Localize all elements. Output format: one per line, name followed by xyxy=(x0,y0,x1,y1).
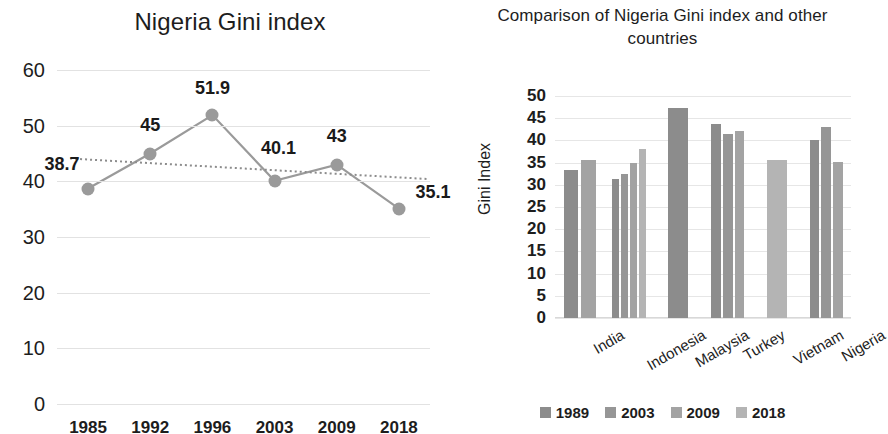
line-chart-data-point[interactable] xyxy=(268,174,281,187)
line-chart-gridline xyxy=(57,70,430,71)
bar-chart-gridline xyxy=(555,296,851,297)
line-chart-y-tick-label: 40 xyxy=(23,170,45,193)
bar-chart-gridline xyxy=(555,318,851,319)
legend-item-label: 1989 xyxy=(556,404,589,421)
bar-chart-bar[interactable] xyxy=(821,127,831,318)
bar-chart-bar[interactable] xyxy=(723,134,733,318)
line-chart-gridline xyxy=(57,348,430,349)
bar-chart-gridline xyxy=(555,118,851,119)
line-chart-x-tick-label: 2018 xyxy=(380,418,418,434)
line-chart-data-point[interactable] xyxy=(330,158,343,171)
line-chart-plot-area: 010203040506019851992199620032009201838.… xyxy=(57,70,430,404)
bar-chart-bar[interactable] xyxy=(630,163,637,318)
bar-chart-y-tick-label: 50 xyxy=(527,86,546,106)
bar-chart-legend: 1989200320092018 xyxy=(460,404,865,421)
bar-chart-gridline xyxy=(555,96,851,97)
bar-chart-category-label: India xyxy=(590,326,627,357)
bar-chart-plot-area: 05101520253035404550IndiaIndonesiaMalays… xyxy=(555,96,851,318)
bar-chart-bar[interactable] xyxy=(564,170,579,318)
legend-swatch-icon xyxy=(540,407,551,418)
line-chart-data-label: 51.9 xyxy=(195,78,230,99)
bar-chart-bar[interactable] xyxy=(581,160,596,319)
bar-chart-bar[interactable] xyxy=(668,108,688,318)
line-chart-data-point[interactable] xyxy=(144,147,157,160)
bar-chart-y-tick-label: 20 xyxy=(527,219,546,239)
bar-chart-y-tick-label: 5 xyxy=(537,286,546,306)
bar-chart-gridline xyxy=(555,140,851,141)
line-chart-x-tick-label: 2003 xyxy=(256,418,294,434)
line-chart-gridline xyxy=(57,237,430,238)
line-chart-y-tick-label: 10 xyxy=(23,337,45,360)
bar-chart-gridline xyxy=(555,185,851,186)
bar-chart-gridline xyxy=(555,274,851,275)
line-chart-data-label: 43 xyxy=(327,126,347,147)
line-chart-gridline xyxy=(57,293,430,294)
legend-item[interactable]: 1989 xyxy=(540,404,589,421)
bar-chart-bar[interactable] xyxy=(810,140,820,318)
bar-chart-category-label: Nigeria xyxy=(839,326,888,364)
legend-item-label: 2018 xyxy=(752,404,785,421)
bar-chart-title: Comparison of Nigeria Gini index and oth… xyxy=(460,4,865,50)
bar-chart-bar[interactable] xyxy=(711,124,721,318)
legend-swatch-icon xyxy=(605,407,616,418)
line-chart-y-tick-label: 0 xyxy=(34,393,45,416)
bar-chart-gridline xyxy=(555,163,851,164)
country-comparison-bar-chart-panel: Comparison of Nigeria Gini index and oth… xyxy=(460,0,865,434)
line-chart-gridline xyxy=(57,126,430,127)
line-chart-gridline xyxy=(57,404,430,405)
line-chart-x-tick-label: 2009 xyxy=(318,418,356,434)
gini-series-line xyxy=(88,115,399,209)
bar-chart-y-tick-label: 30 xyxy=(527,175,546,195)
bar-chart-bar[interactable] xyxy=(735,131,745,318)
bar-chart-y-tick-label: 40 xyxy=(527,130,546,150)
bar-chart-gridline xyxy=(555,207,851,208)
nigeria-gini-line-chart-panel: Nigeria Gini index 010203040506019851992… xyxy=(0,0,460,434)
line-chart-data-point[interactable] xyxy=(392,202,405,215)
bar-chart-y-tick-label: 35 xyxy=(527,153,546,173)
line-chart-y-tick-label: 60 xyxy=(23,59,45,82)
line-chart-y-tick-label: 20 xyxy=(23,281,45,304)
line-chart-x-tick-label: 1985 xyxy=(69,418,107,434)
legend-swatch-icon xyxy=(736,407,747,418)
line-chart-data-label: 38.7 xyxy=(45,154,80,175)
legend-item-label: 2009 xyxy=(687,404,720,421)
line-chart-y-tick-label: 50 xyxy=(23,114,45,137)
legend-item[interactable]: 2003 xyxy=(605,404,654,421)
bar-chart-category-label: Vietnam xyxy=(790,326,846,368)
bar-chart-bar[interactable] xyxy=(639,149,646,318)
line-chart-title: Nigeria Gini index xyxy=(0,8,460,36)
legend-item-label: 2003 xyxy=(621,404,654,421)
line-chart-data-label: 40.1 xyxy=(261,138,296,159)
bar-chart-bar[interactable] xyxy=(833,162,843,318)
line-chart-x-tick-label: 1992 xyxy=(131,418,169,434)
bar-chart-y-axis-title: Gini Index xyxy=(476,143,494,215)
bar-chart-bar[interactable] xyxy=(612,179,619,318)
legend-item[interactable]: 2009 xyxy=(671,404,720,421)
line-chart-data-point[interactable] xyxy=(206,109,219,122)
bar-chart-y-tick-label: 45 xyxy=(527,108,546,128)
line-chart-data-point[interactable] xyxy=(82,182,95,195)
bar-chart-gridline xyxy=(555,229,851,230)
bar-chart-bar[interactable] xyxy=(767,160,787,319)
legend-item[interactable]: 2018 xyxy=(736,404,785,421)
line-chart-y-tick-label: 30 xyxy=(23,226,45,249)
legend-swatch-icon xyxy=(671,407,682,418)
line-chart-data-label: 45 xyxy=(140,115,160,136)
line-chart-data-label: 35.1 xyxy=(415,182,450,203)
bar-chart-y-tick-label: 0 xyxy=(537,308,546,328)
bar-chart-bar[interactable] xyxy=(621,174,628,318)
bar-chart-y-tick-label: 15 xyxy=(527,241,546,261)
bar-chart-y-tick-label: 25 xyxy=(527,197,546,217)
bar-chart-gridline xyxy=(555,251,851,252)
line-chart-gridline xyxy=(57,181,430,182)
bar-chart-y-tick-label: 10 xyxy=(527,264,546,284)
line-chart-x-tick-label: 1996 xyxy=(193,418,231,434)
